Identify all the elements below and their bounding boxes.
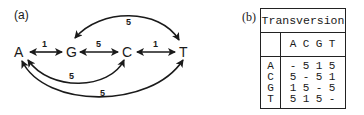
weight-a-t: 5 [100,88,105,98]
node-a: A [14,44,24,60]
table-cell: 5 [288,94,298,105]
transversion-graph: A G C T 1 5 1 5 5 5 [0,0,250,115]
table-body: - 5 1 5 5 - 5 1 1 5 - 5 5 1 5 - [281,61,346,105]
node-g: G [66,44,77,60]
table-row: 5 1 5 - [281,94,346,105]
weight-a-g: 1 [42,39,47,49]
table-title: Transversion [261,9,345,33]
weight-g-c: 5 [96,39,101,49]
table-cell: - [327,94,337,105]
weight-a-c: 5 [69,71,74,81]
node-c: C [122,44,132,60]
row-header: T [261,94,280,105]
col-header: A [288,33,298,56]
node-t: T [179,44,188,60]
table-cell: 1 [301,94,311,105]
panel-b-label: (b) [242,10,256,25]
transversion-table: Transversion A C G T A C G T - 5 1 5 5 -… [260,8,346,109]
table-cell: 5 [314,94,324,105]
column-headers: A C G T [281,33,346,56]
col-header: G [314,33,324,56]
horizontal-divider [261,56,345,57]
weight-g-t: 5 [126,17,131,27]
weight-c-t: 1 [153,39,158,49]
edge-a-c [28,60,124,83]
col-header: T [327,33,337,56]
row-headers: A C G T [261,61,280,105]
col-header: C [301,33,311,56]
